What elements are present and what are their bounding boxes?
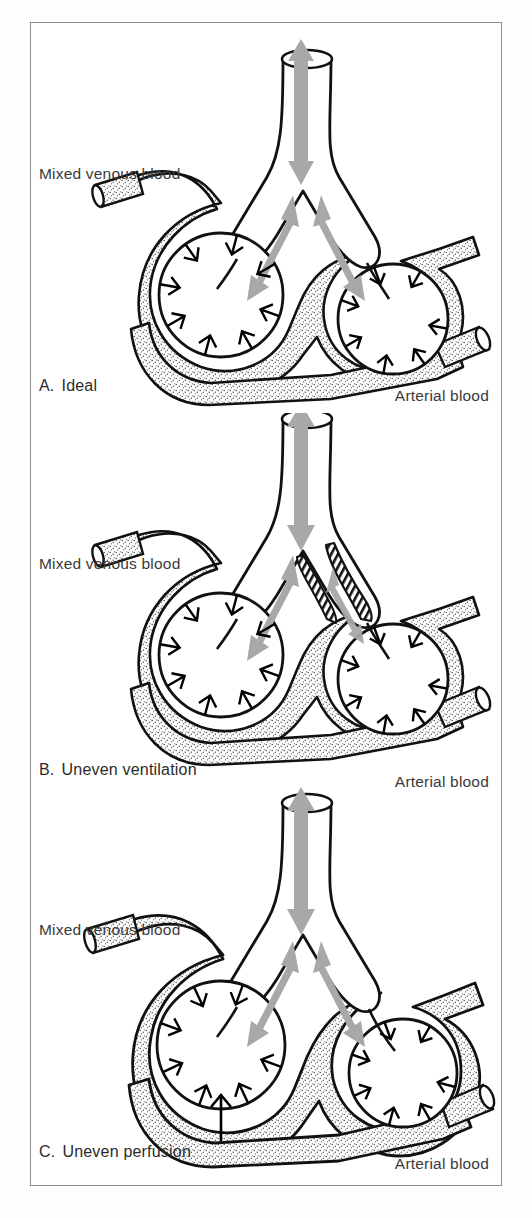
panel-ideal: Mixed venous blood Arterial blood A.Idea… [31,23,501,413]
panel-caption-text-b: Uneven ventilation [62,761,197,778]
arterial-blood-label-a: Arterial blood [395,387,489,405]
panel-caption-text-a: Ideal [62,377,98,394]
panel-a-diagram [31,23,501,413]
panel-c-diagram [31,783,501,1185]
panel-letter-b: B. [39,761,55,778]
panel-caption-b: B.Uneven ventilation [39,761,197,779]
panel-caption-a: A.Ideal [39,377,97,395]
panel-caption-text-c: Uneven perfusion [62,1143,191,1160]
panel-letter-a: A. [39,377,55,394]
arterial-blood-label-c: Arterial blood [395,1155,489,1173]
mixed-venous-blood-label-b: Mixed venous blood [39,555,180,573]
panel-uneven-perfusion: Mixed venous blood Arterial blood C.Unev… [31,783,501,1185]
panel-uneven-ventilation: Mixed venous blood Arterial blood B.Unev… [31,413,501,803]
figure-frame: Mixed venous blood Arterial blood A.Idea… [30,22,502,1186]
mixed-venous-blood-label-a: Mixed venous blood [39,165,180,183]
mixed-venous-blood-label-c: Mixed venous blood [39,921,180,939]
panel-caption-c: C.Uneven perfusion [39,1143,191,1161]
panel-letter-c: C. [39,1143,55,1160]
panel-b-diagram [31,413,501,803]
